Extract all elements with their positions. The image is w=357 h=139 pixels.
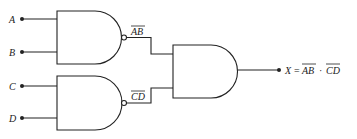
nand-2-output-label: CD xyxy=(131,91,146,102)
output-term-1: AB xyxy=(301,65,314,76)
input-label-d: D xyxy=(8,113,17,124)
nand-1-output-label: AB xyxy=(130,26,143,37)
output-terminal xyxy=(277,68,281,72)
logic-circuit-diagram: A B C D AB CD X = AB · CD xyxy=(0,0,357,139)
wire-nand1-to-and xyxy=(127,38,174,55)
output-term-2: CD xyxy=(326,65,341,76)
nand-2-inversion-bubble xyxy=(122,101,127,106)
input-label-a: A xyxy=(8,14,16,25)
and-gate xyxy=(173,45,238,98)
nand-gate-2 xyxy=(57,76,122,130)
input-label-b: B xyxy=(9,47,15,58)
output-lhs: X xyxy=(284,65,292,76)
nand-1-inversion-bubble xyxy=(122,35,127,40)
output-dot: · xyxy=(319,65,322,76)
output-equals: = xyxy=(294,65,300,76)
input-label-c: C xyxy=(9,81,16,92)
nand-gate-1 xyxy=(57,11,122,64)
